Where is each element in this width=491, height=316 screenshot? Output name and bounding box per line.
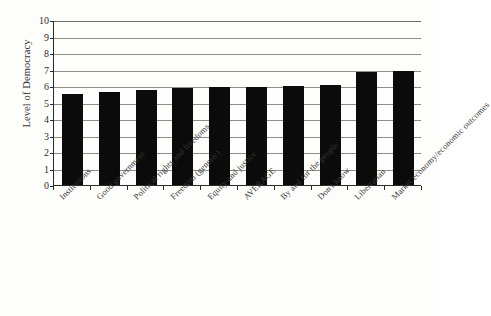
bar[interactable] <box>283 86 304 185</box>
bar[interactable] <box>356 72 377 185</box>
y-tick-label: 3 <box>32 132 49 142</box>
y-tick-label: 9 <box>32 33 49 43</box>
bar[interactable] <box>393 71 414 185</box>
y-tick-label: 8 <box>32 49 49 59</box>
y-tick-label: 0 <box>32 181 49 191</box>
bar[interactable] <box>320 85 341 185</box>
y-tick-label: 2 <box>32 148 49 158</box>
x-tick-mark <box>237 186 238 190</box>
bar[interactable] <box>209 87 230 185</box>
y-tick-label: 10 <box>32 16 49 26</box>
x-tick-mark <box>127 186 128 190</box>
x-tick-mark <box>53 186 54 190</box>
x-tick-mark <box>311 186 312 190</box>
y-tick-label: 7 <box>32 66 49 76</box>
x-tick-mark <box>90 186 91 190</box>
y-tick-label: 4 <box>32 115 49 125</box>
x-tick-mark <box>347 186 348 190</box>
y-axis-title: Level of Democracy <box>21 14 32 154</box>
x-tick-mark <box>200 186 201 190</box>
x-tick-mark <box>163 186 164 190</box>
y-tick-label: 5 <box>32 99 49 109</box>
x-tick-mark <box>274 186 275 190</box>
x-tick-mark <box>421 186 422 190</box>
x-tick-mark <box>384 186 385 190</box>
y-tick-label: 6 <box>32 82 49 92</box>
y-tick-label: 1 <box>32 165 49 175</box>
